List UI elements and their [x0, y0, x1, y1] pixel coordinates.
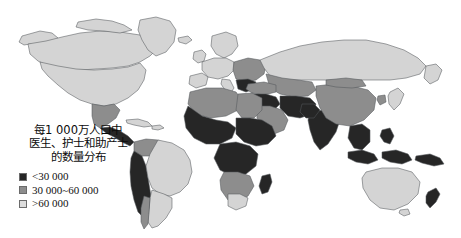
world-choropleth-figure: 每1 000万人口中 医生、护士和助产士 的数量分布 <30 000 30 00… — [0, 0, 461, 238]
legend-item-mid: 30 000~60 000 — [19, 184, 148, 197]
legend-item-low: <30 000 — [19, 170, 148, 183]
region-indonesia-east — [382, 150, 412, 164]
region-hispaniola — [152, 125, 164, 130]
region-japan — [388, 88, 404, 110]
region-south-africa — [228, 194, 248, 210]
legend-block: 每1 000万人口中 医生、护士和助产士 的数量分布 <30 000 30 00… — [8, 124, 148, 211]
region-western-europe — [202, 58, 234, 79]
region-iberia — [189, 73, 208, 88]
region-southeast-asia — [348, 124, 370, 150]
region-canada-arctic-islands — [76, 19, 132, 33]
legend-item-high: >60 000 — [19, 197, 148, 210]
region-korea — [377, 95, 386, 105]
region-madagascar — [259, 174, 272, 194]
legend-swatch-high-icon — [19, 200, 27, 208]
legend-list: <30 000 30 000~60 000 >60 000 — [8, 170, 148, 210]
region-new-zealand — [426, 188, 440, 208]
map-title-line-1: 每1 000万人口中 — [8, 124, 148, 137]
region-australia — [362, 168, 420, 210]
legend-swatch-mid-icon — [19, 186, 27, 194]
map-title: 每1 000万人口中 医生、护士和助产士 的数量分布 — [8, 124, 148, 164]
legend-label-low: <30 000 — [32, 171, 68, 182]
map-title-line-3: 的数量分布 — [8, 151, 148, 164]
region-indonesia-west — [348, 150, 378, 164]
region-new-guinea — [415, 154, 444, 166]
legend-swatch-low-icon — [19, 173, 27, 181]
region-russia — [260, 40, 426, 80]
legend-label-high: >60 000 — [32, 198, 68, 209]
region-libya-egypt — [236, 93, 262, 118]
map-title-line-2: 医生、护士和助产士 — [8, 137, 148, 150]
legend-label-mid: 30 000~60 000 — [32, 185, 98, 196]
region-kamchatka — [424, 64, 442, 84]
region-scandinavia — [211, 32, 238, 58]
region-iceland — [178, 36, 192, 44]
region-central-africa — [214, 142, 258, 176]
region-brazil — [146, 140, 192, 196]
region-philippines — [380, 128, 394, 144]
region-tasmania — [399, 209, 410, 216]
